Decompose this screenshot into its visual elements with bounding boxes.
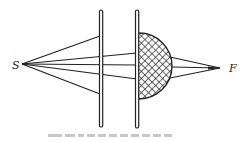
source-rays — [22, 36, 137, 94]
hatched-lens — [139, 33, 173, 99]
focus-label: F — [228, 62, 237, 75]
ray-upper-inner — [22, 53, 137, 64]
source-label: S — [12, 59, 20, 72]
ray-to-focus-lower — [170, 68, 220, 78]
optics-diagram: S F — [0, 0, 244, 141]
ray-to-focus-upper — [170, 57, 220, 68]
plate-1 — [100, 10, 103, 127]
plates — [100, 10, 139, 128]
ray-center — [22, 64, 137, 65]
plate-2 — [136, 10, 139, 128]
ray-lower-inner — [22, 64, 137, 79]
focus-rays — [170, 57, 221, 78]
caption-cutoff — [48, 134, 198, 141]
